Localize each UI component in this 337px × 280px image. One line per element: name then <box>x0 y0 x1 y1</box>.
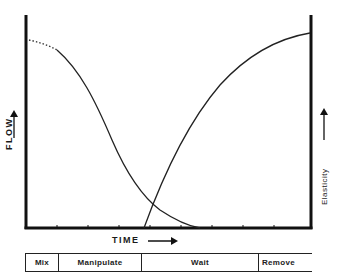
flow-elasticity-diagram <box>0 0 337 280</box>
phase-mix: Mix <box>26 254 59 271</box>
arrow-right-icon <box>148 237 178 245</box>
flow-curve-dotted <box>29 40 57 50</box>
time-axis-label: TIME <box>112 235 140 245</box>
flow-curve <box>57 50 200 228</box>
elasticity-axis-label: Elasticity <box>320 168 329 205</box>
phase-table: Mix Manipulate Wait Remove <box>25 253 312 272</box>
arrow-up-icon <box>320 108 328 140</box>
phase-manipulate: Manipulate <box>59 254 142 271</box>
flow-axis-label: FLOW <box>4 118 14 151</box>
elasticity-curve <box>144 33 310 228</box>
phase-wait: Wait <box>142 254 259 271</box>
phase-remove: Remove <box>259 254 312 271</box>
